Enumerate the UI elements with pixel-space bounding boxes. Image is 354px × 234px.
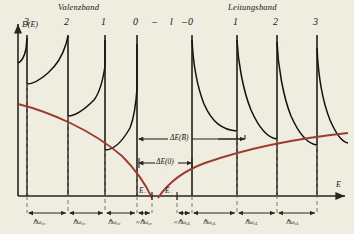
- valence-band-title: Valenzband: [58, 2, 99, 12]
- quantum-number-valence-1: 1: [101, 16, 106, 27]
- spacing-label-conduction-3: ℏωcL: [286, 218, 299, 226]
- quantum-number-valence-2: 2: [64, 16, 69, 27]
- spacing-label-valence-2: ℏωcv: [73, 218, 85, 226]
- quantum-number-conduction-2: 2: [273, 16, 278, 27]
- dos-plot-svg: [0, 0, 354, 234]
- valence-band-peaks: [18, 35, 137, 196]
- quantum-number-symbol: l: [170, 16, 173, 27]
- spacing-label-conduction-half: ½ℏωcL: [174, 218, 190, 226]
- quantum-number-valence-0: 0: [133, 16, 138, 27]
- quantum-number-conduction-1: 1: [233, 16, 238, 27]
- gap-label-zero: ΔE(0): [156, 157, 174, 166]
- quantum-number-conduction-3: 3: [313, 16, 318, 27]
- quantum-number-conduction-0: 0: [188, 16, 193, 27]
- valence-dispersion-curve: [18, 104, 152, 198]
- conduction-band-peaks: [192, 35, 348, 196]
- spacing-label-valence-3: ℏωcv: [108, 218, 120, 226]
- gap-label-field: ΔE(B̄): [170, 133, 189, 142]
- spacing-label-valence-1: ℏωcv: [33, 218, 45, 226]
- spacing-label-valence-half: ½ℏωcv: [136, 218, 152, 226]
- figure-canvas: D(E) E Valenzband Leitungsband 3 2 1 0 –…: [0, 0, 354, 234]
- quantum-number-valence-3: 3: [24, 16, 29, 27]
- x-axis-label: E: [336, 180, 341, 189]
- dash-right: –: [182, 16, 187, 27]
- dash-left: –: [152, 16, 157, 27]
- band-edge-label-conduction: E+: [165, 186, 173, 195]
- conduction-dispersion-curve: [158, 133, 348, 198]
- spacing-label-conduction-1: ℏωcL: [203, 218, 216, 226]
- spacing-label-conduction-2: ℏωcL: [245, 218, 258, 226]
- conduction-band-title: Leitungsband: [228, 2, 277, 12]
- band-edge-label-valence: E−: [139, 186, 147, 195]
